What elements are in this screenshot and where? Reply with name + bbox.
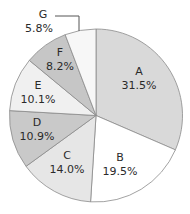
slice-label-e-name: E xyxy=(35,79,42,92)
slice-label-c-name: C xyxy=(63,149,71,162)
slice-label-d-value: 10.9% xyxy=(20,130,55,143)
slice-label-a-value: 31.5% xyxy=(122,79,157,92)
slice-label-f-name: F xyxy=(57,46,63,59)
slice-label-f-value: 8.2% xyxy=(46,60,74,73)
slice-label-g-name: G xyxy=(39,8,48,21)
slice-g-leader-line xyxy=(55,16,79,31)
slice-label-c-value: 14.0% xyxy=(50,163,85,176)
slice-label-b-name: B xyxy=(116,151,124,164)
slice-label-b-value: 19.5% xyxy=(103,165,138,178)
slice-label-g-value: 5.8% xyxy=(25,22,53,35)
pie-chart: A 31.5% B 19.5% C 14.0% D 10.9% E 10.1% … xyxy=(0,0,190,214)
slice-label-e-value: 10.1% xyxy=(21,93,56,106)
slice-label-a-name: A xyxy=(135,65,143,78)
slice-label-d-name: D xyxy=(33,116,41,129)
